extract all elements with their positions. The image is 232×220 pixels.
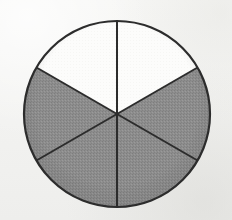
fraction-circle-figure bbox=[0, 0, 232, 220]
pie-chart-svg bbox=[0, 0, 232, 220]
